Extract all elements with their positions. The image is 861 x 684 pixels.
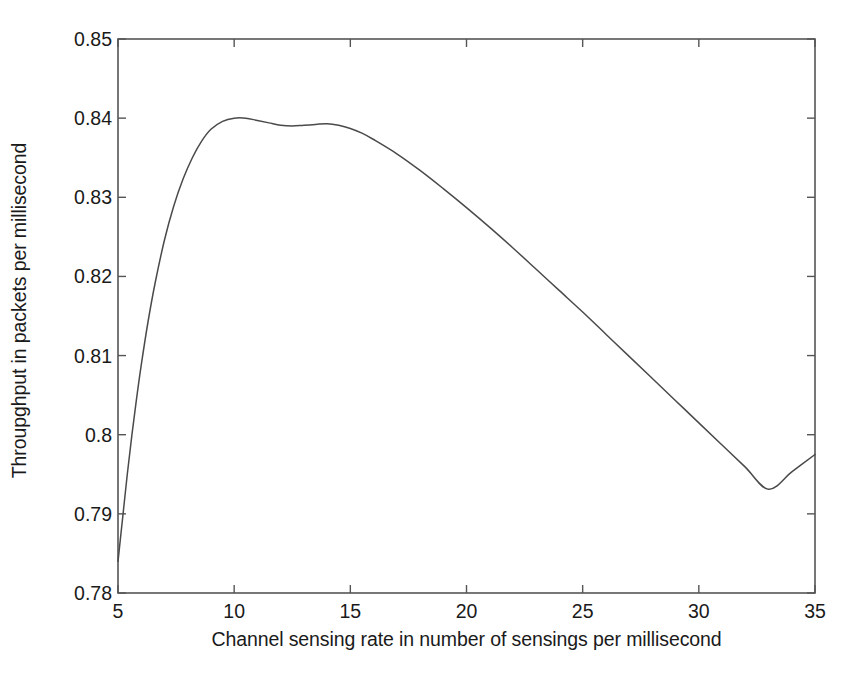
x-axis-label: Channel sensing rate in number of sensin… — [118, 628, 815, 651]
chart-figure: Throupghput in packets per millisecond 0… — [0, 0, 861, 684]
plot-area — [0, 0, 861, 684]
